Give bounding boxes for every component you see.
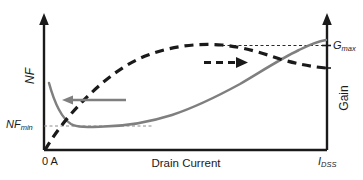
nf-min-label-main: NF: [6, 118, 21, 130]
g-max-label-subscript: max: [342, 44, 356, 53]
noise-figure-direction-arrow: [62, 96, 126, 105]
noise-figure-gain-chart: NF Gain NFmin Gmax 0 A IDSS Drain Curren…: [0, 0, 363, 180]
right-axis: [322, 13, 332, 150]
g-max-label-main: G: [333, 39, 342, 51]
nf-min-label: NFmin: [6, 119, 33, 130]
chart-svg: [0, 0, 363, 180]
g-max-label: Gmax: [333, 40, 356, 51]
gain-curve: [45, 44, 326, 150]
gain-direction-arrow: [204, 57, 248, 68]
nf-min-label-subscript: min: [21, 123, 33, 132]
right-axis-label: Gain: [338, 83, 350, 113]
x-axis-max-label-subscript: DSS: [321, 160, 336, 169]
left-axis: [39, 13, 49, 150]
noise-figure-curve: [49, 40, 326, 127]
x-axis-origin-label: 0 A: [42, 156, 58, 167]
x-axis-max-label: IDSS: [318, 156, 336, 167]
x-axis-title: Drain Current: [140, 158, 232, 170]
left-axis-label: NF: [24, 62, 36, 90]
